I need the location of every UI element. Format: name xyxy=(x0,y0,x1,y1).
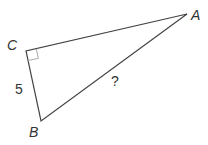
vertex-label-a: A xyxy=(191,8,200,22)
vertex-label-b: B xyxy=(29,125,38,139)
vertex-label-c: C xyxy=(7,38,17,52)
side-label-bc: 5 xyxy=(15,82,23,96)
side-label-ab: ? xyxy=(111,74,119,88)
triangle-abc xyxy=(26,14,187,121)
triangle-diagram: C B A 5 ? xyxy=(0,0,208,145)
